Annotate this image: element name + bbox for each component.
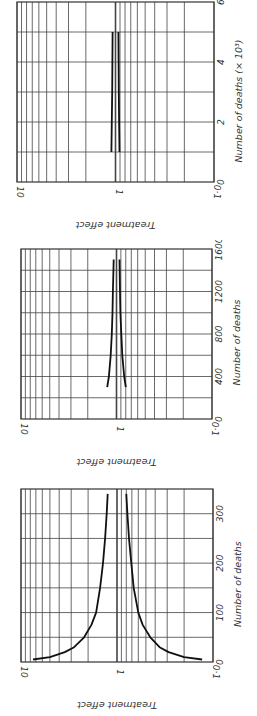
y-tick-label: 1 [115,669,125,675]
chart-svg-large-scale: 0246Number of deaths (× 10³)1010·1Treatm… [0,0,257,235]
boundary-curve [118,32,119,152]
y-tick-label: 0·1 [210,422,220,436]
y-tick-label: 10 [15,186,25,198]
chart-panel-3: 0100200300Number of deaths1010·1Treatmen… [0,478,257,716]
x-axis-label: Number of deaths (× 10³) [233,39,244,162]
boundary-curve [33,494,108,660]
y-tick-label: 0·1 [211,665,221,679]
y-tick-label: 1 [115,426,125,432]
boundary-curve [111,32,112,152]
x-tick-label: 1600 [214,240,224,260]
y-axis-label: Treatment effect [76,700,157,711]
x-tick-label: 1200 [214,280,224,303]
y-tick-label: 1 [114,189,124,195]
chart-svg-medium-scale: 040080012001600Number of deaths1010·1Tre… [0,240,257,475]
y-axis-label: Treatment effect [75,457,156,468]
boundary-curve [120,260,126,388]
x-tick-label: 800 [214,325,224,342]
boundary-curve [107,260,114,388]
x-tick-label: 100 [215,604,225,621]
x-tick-label: 2 [216,119,226,125]
chart-panel-1: 0246Number of deaths (× 10³)1010·1Treatm… [0,0,257,235]
y-tick-label: 10 [19,666,29,678]
x-tick-label: 6 [216,0,226,5]
x-tick-label: 400 [214,368,224,385]
x-axis-label: Number of deaths [232,541,243,627]
y-tick-label: 0·1 [212,185,222,199]
x-tick-label: 200 [215,554,225,571]
x-tick-label: 300 [215,505,225,522]
y-axis-label: Treatment effect [74,220,155,231]
boundary-curve [126,494,202,660]
x-axis-label: Number of deaths [231,300,242,386]
chart-svg-small-scale: 0100200300Number of deaths1010·1Treatmen… [0,478,257,716]
y-tick-label: 10 [19,423,29,435]
x-tick-label: 4 [216,59,226,65]
chart-panel-2: 040080012001600Number of deaths1010·1Tre… [0,240,257,475]
